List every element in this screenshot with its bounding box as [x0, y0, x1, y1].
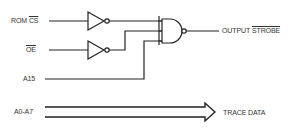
a15-label: A15 — [23, 75, 35, 82]
oe-label: OE — [26, 46, 36, 53]
bus-arrow-icon — [45, 103, 215, 121]
rom-cs-label: ROM CS — [11, 17, 38, 24]
output-prefix: OUTPUT — [222, 27, 252, 34]
output-name: STROBE — [252, 27, 280, 34]
nand-output-bubble — [182, 29, 186, 33]
nand-gate-icon — [162, 19, 182, 43]
oe-name: OE — [26, 46, 36, 53]
rom-cs-inverter-bubble — [105, 19, 109, 23]
trace-data-label: TRACE DATA — [223, 109, 265, 116]
a15-to-gate-wire — [45, 41, 166, 79]
oe-inverter-icon — [88, 41, 104, 59]
output-strobe-label: OUTPUT STROBE — [222, 27, 280, 34]
rom-cs-name: CS — [29, 17, 39, 24]
oe-inverter-bubble — [105, 48, 109, 52]
bus-label: A0-A7 — [14, 108, 33, 115]
rom-cs-inverter-icon — [88, 12, 104, 30]
rom-cs-prefix: ROM — [11, 17, 29, 24]
